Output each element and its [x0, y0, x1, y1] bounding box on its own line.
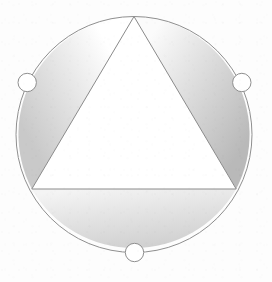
arc-marker-left [18, 73, 36, 91]
figure-canvas [0, 0, 272, 282]
segment-bottom [32, 189, 236, 248]
arc-marker-right [233, 73, 251, 91]
arc-marker-bottom [125, 243, 143, 261]
geometry-diagram [0, 0, 272, 282]
